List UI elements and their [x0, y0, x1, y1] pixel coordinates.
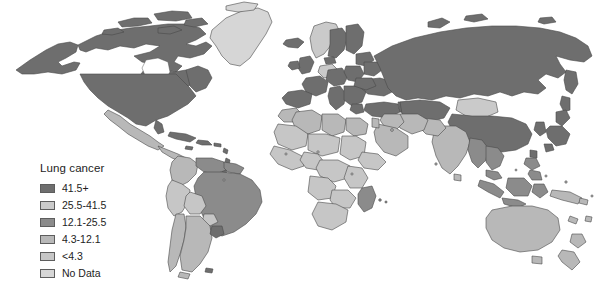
island-dot-3 — [285, 153, 287, 155]
legend-item-5: No Data — [40, 265, 158, 281]
region-fiji — [585, 216, 592, 222]
legend-item-4: <4.3 — [40, 248, 158, 264]
region-tasmania — [532, 256, 542, 264]
legend-swatch-3 — [40, 235, 55, 244]
legend-item-0: 41.5+ — [40, 180, 158, 196]
island-dot-5 — [351, 173, 353, 175]
region-israel-lebanon — [372, 118, 379, 128]
legend-swatch-0 — [40, 184, 55, 193]
legend-label-3: 4.3-12.1 — [62, 234, 101, 245]
legend-swatch-1 — [40, 201, 55, 210]
island-dot-10 — [223, 179, 225, 181]
island-dot-6 — [379, 199, 382, 202]
region-jamaica — [185, 146, 193, 150]
region-sri-lanka — [454, 174, 461, 181]
island-dot-4 — [435, 163, 437, 165]
legend-swatch-2 — [40, 218, 55, 227]
island-dot-1 — [391, 129, 394, 132]
island-dot-11 — [545, 175, 547, 177]
island-dot-8 — [565, 181, 567, 183]
legend-label-0: 41.5+ — [62, 183, 89, 194]
legend-item-3: 4.3-12.1 — [40, 231, 158, 247]
legend-swatch-4 — [40, 252, 55, 261]
world-map-figure: .ld{fill:#6e6e6e;} /* 41.5+ darkest */ .… — [0, 0, 601, 285]
region-taiwan — [530, 150, 537, 158]
legend-swatch-5 — [40, 269, 55, 278]
legend-item-2: 12.1-25.5 — [40, 214, 158, 230]
region-denmark — [324, 57, 336, 64]
island-dot-7 — [385, 201, 387, 203]
island-dot-2 — [317, 151, 319, 153]
island-dot-12 — [515, 169, 517, 171]
legend-label-5: No Data — [62, 268, 101, 279]
region-puerto-rico — [214, 143, 221, 147]
region-falklands — [205, 268, 213, 273]
legend-item-1: 25.5-41.5 — [40, 197, 158, 213]
legend-label-1: 25.5-41.5 — [62, 200, 106, 211]
legend-label-2: 12.1-25.5 — [62, 217, 106, 228]
map-legend: Lung cancer 41.5+ 25.5-41.5 12.1-25.5 4.… — [40, 162, 158, 282]
legend-label-4: <4.3 — [62, 251, 83, 262]
island-dot-9 — [591, 195, 593, 197]
legend-title: Lung cancer — [40, 162, 158, 175]
